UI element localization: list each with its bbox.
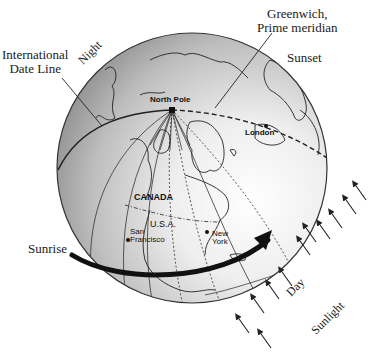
san-francisco-label: San Francisco — [130, 228, 165, 245]
london-label: London — [245, 129, 274, 137]
globe — [57, 33, 327, 303]
new-york-label: New York — [212, 230, 228, 247]
new-york-dot — [205, 230, 209, 234]
international-date-line-label: International Date Line — [2, 48, 68, 75]
sunrise-label: Sunrise — [28, 242, 67, 256]
sunset-label: Sunset — [287, 51, 322, 65]
north-pole-marker — [169, 107, 175, 113]
earth-rotation-diagram: International Date Line Night Greenwich,… — [0, 0, 374, 362]
north-pole-label: North Pole — [150, 96, 190, 104]
canada-label: CANADA — [134, 193, 173, 202]
greenwich-label: Greenwich, Prime meridian — [257, 7, 338, 34]
